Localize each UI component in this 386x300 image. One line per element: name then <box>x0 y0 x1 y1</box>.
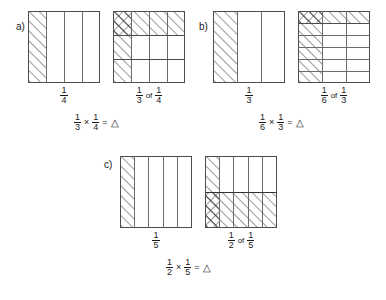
panel-a-right-model <box>113 11 185 83</box>
fraction: 1 3 <box>136 86 143 106</box>
fraction: 1 5 <box>184 258 191 278</box>
fraction: 1 2 <box>166 258 173 278</box>
fraction-numerator: 1 <box>228 231 235 240</box>
fraction: 1 4 <box>155 86 162 106</box>
fraction: 1 3 <box>74 113 81 133</box>
area-model-svg <box>213 11 285 83</box>
fraction-numerator: 1 <box>60 86 67 95</box>
fraction-denominator: 4 <box>60 96 67 105</box>
fraction-denominator: 4 <box>92 123 99 132</box>
panel-b-label: b) <box>199 22 208 32</box>
panel-a-label: a) <box>16 22 25 32</box>
area-model-svg <box>113 11 185 83</box>
equals-symbol: = <box>194 263 199 272</box>
panel-c-left-model <box>120 156 192 228</box>
fraction: 1 3 <box>245 86 252 106</box>
fraction-denominator: 5 <box>152 241 159 250</box>
panel-c-right-model <box>205 156 277 228</box>
shaded-cell <box>29 12 47 83</box>
panel-a: a) 1 4 <box>0 0 195 145</box>
times-symbol: × <box>176 263 181 272</box>
fraction-denominator: 6 <box>321 96 328 105</box>
fraction: 1 4 <box>92 113 99 133</box>
fraction-numerator: 1 <box>321 86 328 95</box>
panel-b-right-model <box>298 11 370 83</box>
fraction-numerator: 1 <box>92 113 99 122</box>
panel-b-left-model <box>213 11 285 83</box>
fraction-numerator: 1 <box>245 86 252 95</box>
panel-a-left-caption: 1 4 <box>28 86 100 106</box>
fraction: 1 6 <box>321 86 328 106</box>
fraction-denominator: 3 <box>245 96 252 105</box>
fraction-denominator: 2 <box>228 241 235 250</box>
answer-triangle-placeholder: △ <box>111 118 119 128</box>
area-model-svg <box>205 156 277 228</box>
shaded-cell <box>121 157 135 228</box>
fraction: 1 3 <box>277 113 284 133</box>
panel-c: c) 1 5 <box>95 150 295 300</box>
answer-triangle-placeholder: △ <box>296 118 304 128</box>
panel-c-equation: 1 2 × 1 5 = △ <box>166 258 211 278</box>
of-word: of <box>238 237 245 245</box>
panel-a-left-model <box>28 11 100 83</box>
fraction-numerator: 1 <box>184 258 191 267</box>
answer-triangle-placeholder: △ <box>203 263 211 273</box>
fraction-numerator: 1 <box>340 86 347 95</box>
panel-c-left-caption: 1 5 <box>120 231 192 251</box>
of-word: of <box>331 92 338 100</box>
overlap-cell <box>299 12 323 24</box>
overlap-cell <box>114 12 132 36</box>
fraction-denominator: 6 <box>259 123 266 132</box>
fraction-numerator: 1 <box>152 231 159 240</box>
equals-symbol: = <box>102 118 107 127</box>
panel-b: b) 1 3 <box>195 0 386 145</box>
fraction-denominator: 3 <box>340 96 347 105</box>
panel-a-equation: 1 3 × 1 4 = △ <box>74 113 119 133</box>
area-model-svg <box>120 156 192 228</box>
fraction-denominator: 3 <box>74 123 81 132</box>
fraction-numerator: 1 <box>247 231 254 240</box>
panel-b-right-caption: 1 6 of 1 3 <box>298 86 370 106</box>
panel-a-right-caption: 1 3 of 1 4 <box>113 86 185 106</box>
area-model-svg <box>28 11 100 83</box>
fraction-denominator: 3 <box>277 123 284 132</box>
overlap-cell <box>206 193 220 228</box>
panel-c-label: c) <box>104 160 112 170</box>
fraction: 1 5 <box>152 231 159 251</box>
fraction-numerator: 1 <box>136 86 143 95</box>
fraction: 1 6 <box>259 113 266 133</box>
fraction-denominator: 5 <box>247 241 254 250</box>
fraction-denominator: 3 <box>136 96 143 105</box>
panel-b-equation: 1 6 × 1 3 = △ <box>259 113 304 133</box>
times-symbol: × <box>269 118 274 127</box>
fraction: 1 3 <box>340 86 347 106</box>
of-word: of <box>146 92 153 100</box>
fraction: 1 2 <box>228 231 235 251</box>
fraction-denominator: 4 <box>155 96 162 105</box>
fraction-numerator: 1 <box>166 258 173 267</box>
fraction-numerator: 1 <box>277 113 284 122</box>
panel-c-right-caption: 1 2 of 1 5 <box>205 231 277 251</box>
fraction: 1 4 <box>60 86 67 106</box>
fraction: 1 5 <box>247 231 254 251</box>
fraction-numerator: 1 <box>74 113 81 122</box>
fraction-numerator: 1 <box>259 113 266 122</box>
fraction-numerator: 1 <box>155 86 162 95</box>
times-symbol: × <box>84 118 89 127</box>
shaded-cell <box>214 12 238 83</box>
equals-symbol: = <box>287 118 292 127</box>
fraction-denominator: 2 <box>166 268 173 277</box>
area-model-svg <box>298 11 370 83</box>
fraction-denominator: 5 <box>184 268 191 277</box>
panel-b-left-caption: 1 3 <box>213 86 285 106</box>
